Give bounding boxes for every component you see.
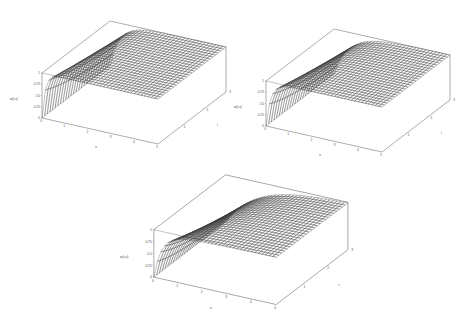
x-axis-title: x <box>95 145 97 149</box>
z-tick-label: 0.5 <box>147 252 152 256</box>
surface-plot-bottom-center: w(t,x) x t 10.750.50.250012345123 <box>118 158 350 314</box>
x-axis-title: x <box>210 306 212 310</box>
x-tick-label: 1 <box>287 132 289 136</box>
x-tick-label: 1 <box>176 284 178 288</box>
z-tick-label: 1 <box>38 71 40 75</box>
z-tick-label: 0.5 <box>260 102 265 106</box>
surface-mesh <box>266 41 450 126</box>
x-tick-label: 4 <box>250 300 252 304</box>
z-tick-label: 0.25 <box>258 113 264 117</box>
surface-wireframe <box>42 30 226 118</box>
t-tick-label: 1 <box>184 125 186 129</box>
surface-mesh <box>154 195 348 277</box>
axis-line <box>276 250 348 305</box>
axis-line <box>42 118 158 144</box>
axis-line <box>154 277 276 304</box>
x-tick-label: 1 <box>63 124 65 128</box>
x-tick-label: 0 <box>264 127 266 131</box>
axis-line <box>382 100 450 152</box>
t-tick-label: 1 <box>303 285 305 289</box>
z-tick-label: 1 <box>150 228 152 232</box>
y-axis-title: t <box>441 131 442 135</box>
x-tick-label: 5 <box>380 153 382 157</box>
plot-svg-top-right: w(t,x) x t 10.750.50.250012345123 <box>232 14 452 160</box>
t-tick-label: 3 <box>229 90 231 94</box>
figure-canvas: w(t,x) x t 10.750.50.250012345123 w(t,x)… <box>0 0 458 320</box>
x-tick-label: 3 <box>110 135 112 139</box>
x-tick-label: 4 <box>357 148 359 152</box>
z-axis-title: w(t,x) <box>234 105 242 109</box>
x-tick-label: 5 <box>156 145 158 149</box>
z-tick-label: 0.75 <box>34 82 40 86</box>
x-tick-label: 5 <box>274 306 276 310</box>
x-tick-label: 2 <box>201 290 203 294</box>
t-tick-label: 2 <box>207 108 209 112</box>
x-tick-label: 4 <box>133 140 135 144</box>
z-tick-label: 1 <box>262 79 264 83</box>
x-tick-label: 3 <box>225 295 227 299</box>
t-tick-label: 2 <box>327 266 329 270</box>
x-axis-title: x <box>319 153 321 157</box>
x-tick-label: 0 <box>152 279 154 283</box>
axis-line <box>158 92 226 144</box>
t-tick-label: 1 <box>408 133 410 137</box>
plot-svg-top-left: w(t,x) x t 10.750.50.250012345123 <box>8 6 228 152</box>
plot-svg-bottom-center: w(t,x) x t 10.750.50.250012345123 <box>118 158 350 314</box>
x-tick-label: 2 <box>87 130 89 134</box>
z-tick-label: 0.25 <box>34 105 40 109</box>
z-tick-label: 0.5 <box>36 94 41 98</box>
surface-wireframe <box>266 41 450 126</box>
surface-plot-top-left: w(t,x) x t 10.750.50.250012345123 <box>8 6 228 152</box>
surface-plot-top-right: w(t,x) x t 10.750.50.250012345123 <box>232 14 452 160</box>
surface-wireframe <box>154 195 348 277</box>
t-tick-label: 2 <box>431 116 433 120</box>
y-axis-title: t <box>217 123 218 127</box>
t-tick-label: 3 <box>453 98 455 102</box>
x-tick-label: 0 <box>40 119 42 123</box>
t-tick-label: 3 <box>351 248 353 252</box>
y-axis-title: t <box>338 283 339 287</box>
x-tick-label: 3 <box>334 143 336 147</box>
axis-line <box>266 29 334 81</box>
z-axis-title: w(t,x) <box>10 97 18 101</box>
z-tick-label: 0.75 <box>145 240 152 244</box>
axis-line <box>266 126 382 152</box>
z-tick-label: 0.25 <box>145 264 152 268</box>
x-tick-label: 2 <box>311 138 313 142</box>
z-axis-title: w(t,x) <box>120 255 128 259</box>
z-tick-label: 0.75 <box>258 90 264 94</box>
surface-mesh <box>42 30 226 118</box>
